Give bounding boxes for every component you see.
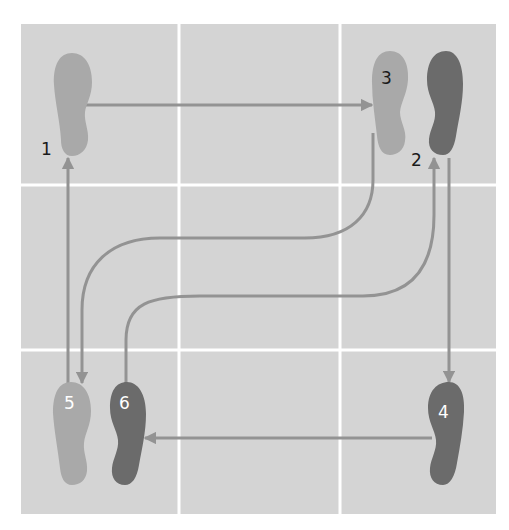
step-label-2: 2 [411,150,422,170]
step-label-4: 4 [438,402,449,422]
footwork-diagram: 1 2 3 4 5 6 [0,0,509,530]
step-label-5: 5 [64,393,75,413]
step-label-3: 3 [381,68,392,88]
step-label-6: 6 [119,393,130,413]
step-label-1: 1 [41,139,52,159]
